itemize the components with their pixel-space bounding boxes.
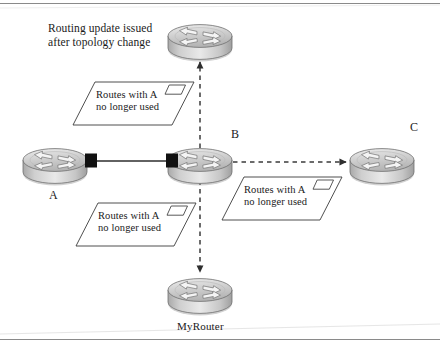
network-diagram: [0, 0, 440, 348]
router-label-b: B: [231, 127, 239, 141]
router-node-c[interactable]: [350, 149, 414, 186]
callout-top-label: Routes with A no longer used: [96, 89, 159, 114]
connector-b: [166, 154, 178, 168]
callout-bottom-label: Routes with A no longer used: [98, 210, 161, 235]
router-label-a: A: [49, 188, 58, 202]
router-node-top[interactable]: [168, 25, 232, 62]
callout-right-label: Routes with A no longer used: [244, 184, 307, 209]
caption-note: Routing update issued after topology cha…: [48, 22, 152, 49]
router-node-a[interactable]: [23, 149, 87, 186]
router-node-myrouter[interactable]: [168, 279, 232, 316]
figure-canvas: Routing update issued after topology cha…: [0, 0, 440, 348]
router-label-myrouter: MyRouter: [177, 320, 224, 333]
router-label-c: C: [410, 120, 418, 134]
connector-a: [85, 154, 97, 168]
